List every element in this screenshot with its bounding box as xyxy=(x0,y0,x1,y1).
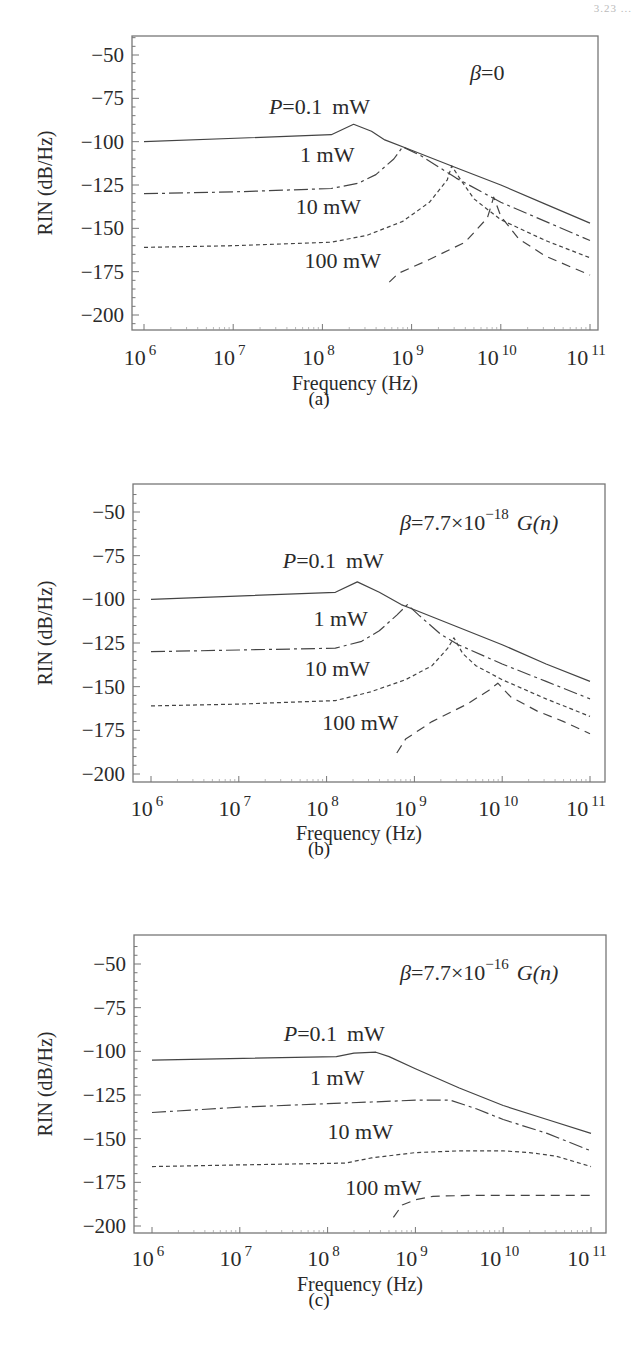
y-tick-label: −200 xyxy=(83,1214,126,1238)
x-tick-label: 109 xyxy=(395,1243,428,1271)
series-label: 1 mW xyxy=(310,1065,365,1090)
y-tick-label: −50 xyxy=(93,952,126,976)
series-label: 100 mW xyxy=(345,1175,422,1200)
y-tick-label: −175 xyxy=(83,1170,126,1194)
y-axis-label: RIN (dB/Hz) xyxy=(34,1032,57,1137)
series-label: 10 mW xyxy=(328,1119,394,1144)
x-tick-label: 106 xyxy=(132,1243,165,1271)
caption-c: (c) xyxy=(0,1289,638,1311)
beta-annotation: β=7.7×10−16G(n) xyxy=(399,956,558,985)
chart-panel-c: −50−75−100−125−150−175−20010610710810910… xyxy=(0,0,638,1350)
series-line-100-mw xyxy=(393,1195,591,1217)
rin-chart-c: −50−75−100−125−150−175−20010610710810910… xyxy=(0,0,638,1350)
y-tick-label: −125 xyxy=(83,1083,126,1107)
x-tick-label: 1011 xyxy=(567,1243,606,1271)
x-tick-label: 1010 xyxy=(479,1243,519,1271)
y-tick-label: −150 xyxy=(83,1127,126,1151)
series-line-10-mw xyxy=(152,1151,591,1167)
x-tick-label: 107 xyxy=(220,1243,253,1271)
y-tick-label: −75 xyxy=(93,996,126,1020)
series-label: P=0.1 mW xyxy=(283,1021,385,1046)
y-tick-label: −100 xyxy=(83,1039,126,1063)
x-tick-label: 108 xyxy=(307,1243,340,1271)
